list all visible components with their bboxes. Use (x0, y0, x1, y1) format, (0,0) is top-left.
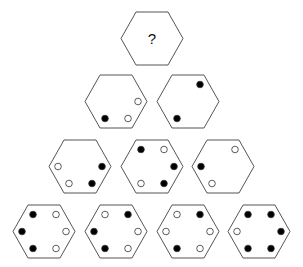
white-dot-br (125, 115, 132, 122)
black-dot-bl (30, 245, 37, 252)
black-dot-bl (174, 245, 181, 252)
white-dot-br (197, 245, 204, 252)
white-dot-r (63, 228, 70, 235)
question-hexagon: ? (120, 11, 184, 66)
black-dot-br (161, 180, 168, 187)
black-dot-bl (102, 115, 109, 122)
white-dot-l (163, 228, 170, 235)
black-dot-l (91, 228, 98, 235)
black-dot-br (268, 245, 275, 252)
white-dot-tl (102, 211, 109, 218)
black-dot-br (89, 180, 96, 187)
hexagon-cell (156, 204, 220, 259)
black-dot-tl (138, 146, 145, 153)
white-dot-bl (66, 180, 73, 187)
hexagon-cell (120, 139, 184, 194)
white-dot-tl (174, 211, 181, 218)
white-dot-l (234, 228, 241, 235)
hexagon-outline (191, 139, 255, 194)
white-dot-bl (209, 180, 216, 187)
hexagon-outline (48, 139, 112, 194)
hexagon-cell (12, 204, 76, 259)
black-dot-tl (245, 211, 252, 218)
black-dot-tl (30, 211, 37, 218)
hexagon-outline (156, 74, 220, 129)
white-dot-r (135, 98, 142, 105)
hexagon-cell (48, 139, 112, 194)
white-dot-l (55, 163, 62, 170)
white-dot-tr (232, 146, 239, 153)
black-dot-r (171, 163, 178, 170)
white-dot-bl (138, 180, 145, 187)
black-dot-r (278, 228, 285, 235)
hexagon-outline (84, 74, 148, 129)
black-dot-l (19, 228, 26, 235)
hexagon-pyramid-puzzle: ? (0, 0, 303, 267)
black-dot-tr (268, 211, 275, 218)
hexagon-outline (84, 204, 148, 259)
hexagon-outline (120, 139, 184, 194)
hexagon-cell (84, 74, 148, 129)
black-dot-tr (197, 81, 204, 88)
black-dot-r (99, 163, 106, 170)
black-dot-bl (174, 115, 181, 122)
hexagon-cell (84, 204, 148, 259)
hexagon-cell (191, 139, 255, 194)
white-dot-br (53, 245, 60, 252)
white-dot-r (207, 228, 214, 235)
hexagon-outline (227, 204, 291, 259)
hexagon-outline (156, 204, 220, 259)
black-dot-bl (245, 245, 252, 252)
black-dot-bl (102, 245, 109, 252)
white-dot-tr (161, 146, 168, 153)
white-dot-tr (53, 211, 60, 218)
question-mark: ? (120, 11, 184, 66)
white-dot-r (135, 228, 142, 235)
hexagon-cell (227, 204, 291, 259)
hexagon-outline (12, 204, 76, 259)
black-dot-l (198, 163, 205, 170)
black-dot-tr (125, 211, 132, 218)
hexagon-cell (156, 74, 220, 129)
white-dot-br (125, 245, 132, 252)
black-dot-tr (197, 211, 204, 218)
